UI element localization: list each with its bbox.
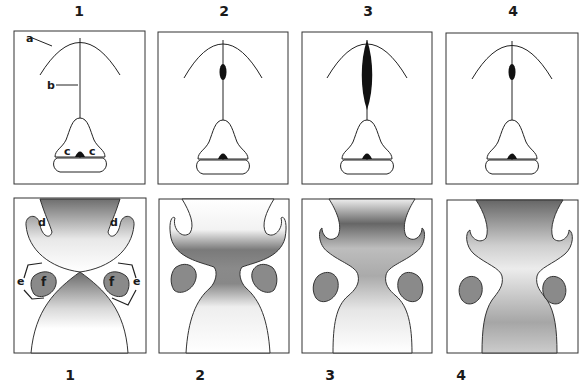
panel-bottom-2	[159, 199, 289, 353]
panel-top-2	[158, 32, 288, 184]
panel-bottom-4	[447, 200, 578, 353]
label-c-right: c	[89, 145, 96, 158]
label-d-right: d	[110, 216, 118, 229]
label-b: b	[47, 79, 55, 92]
spindle-small	[220, 64, 227, 80]
label-a: a	[26, 32, 33, 45]
panel-bottom-3	[302, 199, 432, 353]
label-e-left: e	[17, 275, 24, 288]
panel-top-3	[302, 32, 432, 184]
panel-top-4	[446, 33, 578, 184]
label-f-left: f	[41, 275, 47, 289]
label-c-left: c	[64, 145, 71, 158]
label-d-left: d	[38, 216, 46, 229]
panel-bottom-1: d d e e f f	[14, 198, 146, 353]
label-f-right: f	[109, 275, 115, 289]
diagram-canvas: a b c c	[0, 0, 583, 386]
panel-top-1: a b c c	[14, 31, 145, 184]
label-e-right: e	[133, 275, 140, 288]
spindle-small	[509, 64, 516, 80]
